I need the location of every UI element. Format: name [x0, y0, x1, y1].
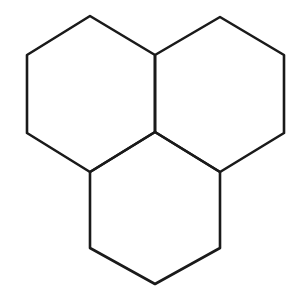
diagram-canvas: [0, 0, 305, 300]
fused-hexagon-diagram: [0, 0, 305, 300]
